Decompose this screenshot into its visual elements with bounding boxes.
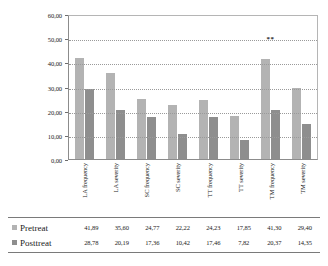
bar-posttreat	[116, 110, 125, 159]
gridline	[69, 113, 317, 114]
table-cell-value: 41,89	[76, 224, 107, 231]
table-cell-value: 17,85	[229, 224, 260, 231]
table-cell-value: 24,77	[137, 224, 168, 231]
x-axis-label-cell: TM severity	[287, 161, 318, 211]
table-row: Posttreat28,7820,1917,3610,4217,467,8220…	[8, 235, 320, 250]
x-axis-tick-label: SC severity	[174, 163, 181, 192]
bar-chart-figure: ** 0,0010,0020,0030,0040,0050,0060,00 LA…	[0, 0, 328, 266]
bar-pretreat	[106, 73, 115, 159]
table-cell-value: 24,23	[198, 224, 229, 231]
x-axis-label-cell: LA severity	[99, 161, 130, 211]
y-axis-tick-mark	[65, 88, 68, 89]
legend-swatch-cell	[8, 225, 20, 230]
table-cell-value: 14,35	[290, 239, 321, 246]
x-axis-label-cell: TT frequency	[193, 161, 224, 211]
gridline	[69, 40, 317, 41]
table-cell-value: 7,82	[229, 239, 260, 246]
y-axis-tick-label: 20,00	[0, 108, 62, 115]
x-axis-tick-label: TT frequency	[205, 163, 212, 197]
x-axis-tick-label: TM frequency	[268, 163, 275, 199]
bar-pretreat	[137, 99, 146, 159]
y-axis-tick-label: 40,00	[0, 60, 62, 67]
x-axis-label-cell: TT severity	[224, 161, 255, 211]
bar-posttreat	[271, 110, 280, 159]
y-axis-tick-mark	[65, 63, 68, 64]
table-cell-value: 20,37	[259, 239, 290, 246]
bar-posttreat	[147, 117, 156, 159]
legend-swatch-posttreat	[12, 240, 17, 245]
y-axis-tick-label: 30,00	[0, 84, 62, 91]
y-axis-tick-label: 10,00	[0, 132, 62, 139]
gridline	[69, 64, 317, 65]
series-name-label: Posttreat	[20, 238, 76, 248]
series-name-label: Pretreat	[20, 223, 76, 233]
table-cell-value: 22,22	[168, 224, 199, 231]
x-axis-label-cell: TM frequency	[256, 161, 287, 211]
bar-posttreat	[302, 124, 311, 159]
legend-swatch-cell	[8, 240, 20, 245]
table-rule-bottom	[8, 252, 320, 253]
x-axis-label-cell: SC severity	[162, 161, 193, 211]
table-cell-value: 29,40	[290, 224, 321, 231]
table-cell-value: 35,60	[107, 224, 138, 231]
x-axis-tick-label: TM severity	[299, 163, 306, 194]
bar-posttreat	[240, 140, 249, 159]
plot-area: **	[68, 15, 318, 160]
series-value-cells: 41,8935,6024,7722,2224,2317,8541,3029,40	[76, 224, 320, 231]
bar-posttreat	[209, 117, 218, 159]
x-axis-tick-label: TT severity	[236, 163, 243, 192]
table-cell-value: 28,78	[76, 239, 107, 246]
y-axis-tick-mark	[65, 39, 68, 40]
x-axis-tick-label: SC frequency	[143, 163, 150, 197]
x-axis-tick-label: LA frequency	[80, 163, 87, 198]
bar-posttreat	[85, 89, 94, 159]
y-axis-tick-mark	[65, 15, 68, 16]
table-row: Pretreat41,8935,6024,7722,2224,2317,8541…	[8, 220, 320, 235]
bar-pretreat	[199, 100, 208, 159]
x-axis-tick-label: LA severity	[111, 163, 118, 192]
y-axis-tick-label: 50,00	[0, 36, 62, 43]
series-data-table: Pretreat41,8935,6024,7722,2224,2317,8541…	[8, 220, 320, 250]
x-axis-label-cell: SC frequency	[131, 161, 162, 211]
y-axis-tick-mark	[65, 136, 68, 137]
series-value-cells: 28,7820,1917,3610,4217,467,8220,3714,35	[76, 239, 320, 246]
table-rule-top	[8, 217, 320, 218]
x-axis-category-labels: LA frequencyLA severitySC frequencySC se…	[68, 161, 318, 211]
legend-swatch-pretreat	[12, 225, 17, 230]
gridline	[69, 89, 317, 90]
bar-pretreat	[261, 59, 270, 159]
x-axis-label-cell: LA frequency	[68, 161, 99, 211]
table-cell-value: 17,36	[137, 239, 168, 246]
bar-pretreat	[75, 58, 84, 159]
y-axis-tick-label: 60,00	[0, 12, 62, 19]
gridline	[69, 137, 317, 138]
table-cell-value: 20,19	[107, 239, 138, 246]
y-axis-tick-mark	[65, 112, 68, 113]
bar-pretreat	[292, 88, 301, 159]
table-cell-value: 10,42	[168, 239, 199, 246]
y-axis-tick-label: 0,00	[0, 157, 62, 164]
table-cell-value: 41,30	[259, 224, 290, 231]
table-cell-value: 17,46	[198, 239, 229, 246]
